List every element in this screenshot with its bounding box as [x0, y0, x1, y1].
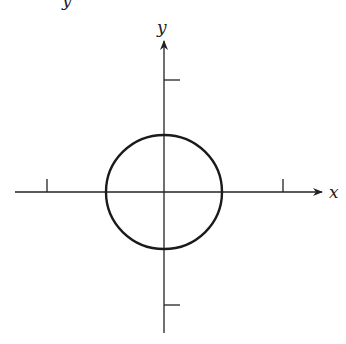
- y-axis-label: y: [156, 17, 167, 37]
- x-axis-label: x: [329, 182, 339, 202]
- partial-top-label: y: [61, 0, 72, 10]
- coordinate-diagram: y y x: [0, 0, 346, 344]
